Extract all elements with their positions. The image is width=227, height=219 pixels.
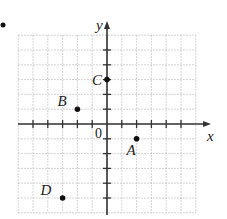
bullet-icon — [1, 23, 6, 28]
points: ABCD — [40, 72, 140, 201]
coordinate-plane: x y 0 ABCD — [0, 0, 227, 219]
origin-label: 0 — [95, 126, 102, 141]
point-label-b: B — [57, 93, 66, 109]
y-axis-label: y — [94, 17, 103, 33]
x-axis-label: x — [206, 128, 214, 144]
y-axis-arrow-icon — [104, 21, 110, 29]
point-a — [134, 136, 140, 142]
point-label-a: A — [126, 142, 137, 158]
point-c — [104, 77, 110, 83]
point-b — [75, 106, 81, 112]
point-d — [60, 195, 66, 201]
point-label-c: C — [92, 72, 103, 88]
x-axis-arrow-icon — [203, 121, 211, 127]
point-label-d: D — [40, 182, 52, 198]
